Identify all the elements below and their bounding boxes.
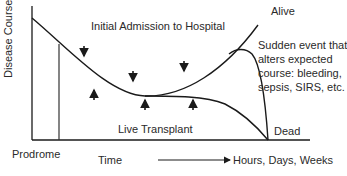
admission-label: Initial Admission to Hospital <box>91 20 225 33</box>
event-note-line: sepsis, SIRS, etc. <box>258 80 347 94</box>
outcome-alive-label: Alive <box>271 5 295 18</box>
event-note-line: Sudden event that <box>258 38 347 52</box>
time-label: Time <box>98 154 122 167</box>
event-note-line: alters expected <box>258 52 347 66</box>
event-note-line: course: bleeding, <box>258 66 347 80</box>
transplant-label: Live Transplant <box>118 123 193 136</box>
time-range-label: Hours, Days, Weeks <box>233 154 333 167</box>
sudden-event-note: Sudden event that alters expected course… <box>258 38 347 94</box>
y-axis-label: Disease Course <box>2 0 14 78</box>
outcome-dead-label: Dead <box>274 125 300 138</box>
up-arrows <box>94 90 193 110</box>
prodrome-label: Prodrome <box>12 148 60 161</box>
